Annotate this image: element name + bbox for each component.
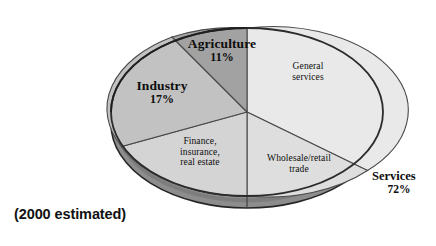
pie-label-industry-percent: 17%	[116, 93, 208, 107]
pie-label-finance-line1: Finance,	[160, 136, 240, 147]
pie-label-wholesale-line1: Wholesale/retail	[250, 153, 348, 164]
pie-label-finance-line2: insurance,	[160, 147, 240, 158]
pie-label-industry: Industry 17%	[116, 78, 208, 107]
pie-label-agriculture: Agriculture 11%	[170, 36, 274, 65]
pie-callout-services-name: Services	[372, 169, 436, 183]
pie-callout-services-percent: 72%	[372, 183, 426, 196]
pie-label-finance-line3: real estate	[160, 157, 240, 168]
pie-chart-figure: Agriculture 11% Industry 17% General ser…	[0, 0, 436, 246]
figure-caption: (2000 estimated)	[14, 206, 126, 222]
pie-label-industry-name: Industry	[116, 78, 208, 93]
pie-label-general-services-line2: services	[272, 72, 344, 83]
pie-label-agriculture-name: Agriculture	[170, 36, 274, 51]
pie-label-general-services: General services	[272, 61, 344, 82]
pie-callout-services: Services 72%	[372, 169, 436, 196]
pie-label-wholesale-line2: trade	[250, 164, 348, 175]
pie-label-general-services-line1: General	[272, 61, 344, 72]
pie-label-agriculture-percent: 11%	[170, 51, 274, 65]
pie-label-wholesale-retail-trade: Wholesale/retail trade	[250, 153, 348, 174]
pie-label-finance-insurance-real-estate: Finance, insurance, real estate	[160, 136, 240, 168]
